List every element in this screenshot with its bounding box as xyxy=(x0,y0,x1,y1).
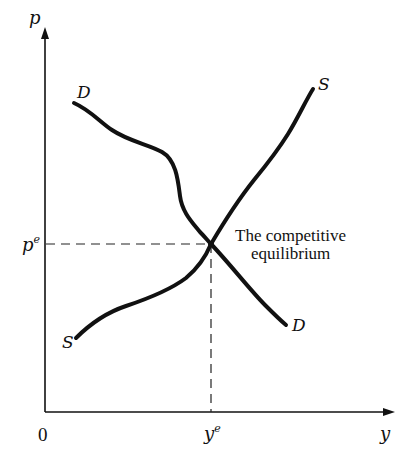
equilibrium-price-label: pe xyxy=(22,233,41,255)
demand-label-start: D xyxy=(76,82,91,102)
equilibrium-point xyxy=(208,241,214,247)
origin-label: 0 xyxy=(38,424,48,445)
equilibrium-annotation-line1: The competitive xyxy=(235,226,346,245)
y-axis xyxy=(41,27,49,412)
y-axis-arrow-icon xyxy=(41,27,49,39)
equilibrium-quantity-label: ye xyxy=(203,422,221,444)
x-axis-arrow-icon xyxy=(383,408,395,416)
equilibrium-annotation-line2: equilibrium xyxy=(251,244,330,263)
supply-label-start: S xyxy=(62,332,74,352)
supply-curve xyxy=(76,89,313,338)
demand-curve xyxy=(74,103,286,325)
quantity-axis-label: y xyxy=(379,423,391,444)
supply-demand-diagram: p y 0 pe ye D D S S The competitive equi… xyxy=(0,0,415,462)
price-axis-label: p xyxy=(29,7,41,28)
demand-label-end: D xyxy=(291,315,306,335)
x-axis xyxy=(45,408,395,416)
supply-label-end: S xyxy=(318,74,330,94)
